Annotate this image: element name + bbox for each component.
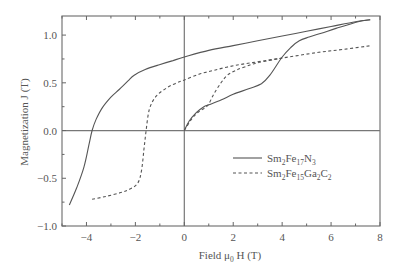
y-tick-label: −0.5 [37, 172, 57, 184]
x-tick-label: −2 [130, 231, 142, 243]
hysteresis-chart: −4−202468−1.0−0.50.00.51.0 Sm2Fe17N3Sm2F… [0, 0, 399, 273]
legend-label: Sm2Fe17N3 [267, 152, 316, 167]
x-tick-label: 6 [328, 231, 334, 243]
y-tick-label: 0.0 [43, 125, 57, 137]
x-tick-label: 2 [230, 231, 236, 243]
y-tick-label: 0.5 [43, 77, 57, 89]
y-axis-label: Magnetization J (T) [18, 78, 31, 166]
x-tick-label: −4 [81, 231, 93, 243]
legend-label: Sm2Fe15Ga2C2 [267, 167, 332, 182]
curve-sm2fe17n3-virgin [184, 20, 370, 131]
x-tick-label: 4 [279, 231, 285, 243]
x-tick-label: 0 [182, 231, 188, 243]
x-tick-label: 8 [377, 231, 383, 243]
y-tick-label: 1.0 [43, 29, 57, 41]
legend: Sm2Fe17N3Sm2Fe15Ga2C2 [233, 152, 332, 182]
x-axis-label: Field μ0 H (T) [199, 249, 262, 264]
y-tick-label: −1.0 [37, 220, 57, 232]
